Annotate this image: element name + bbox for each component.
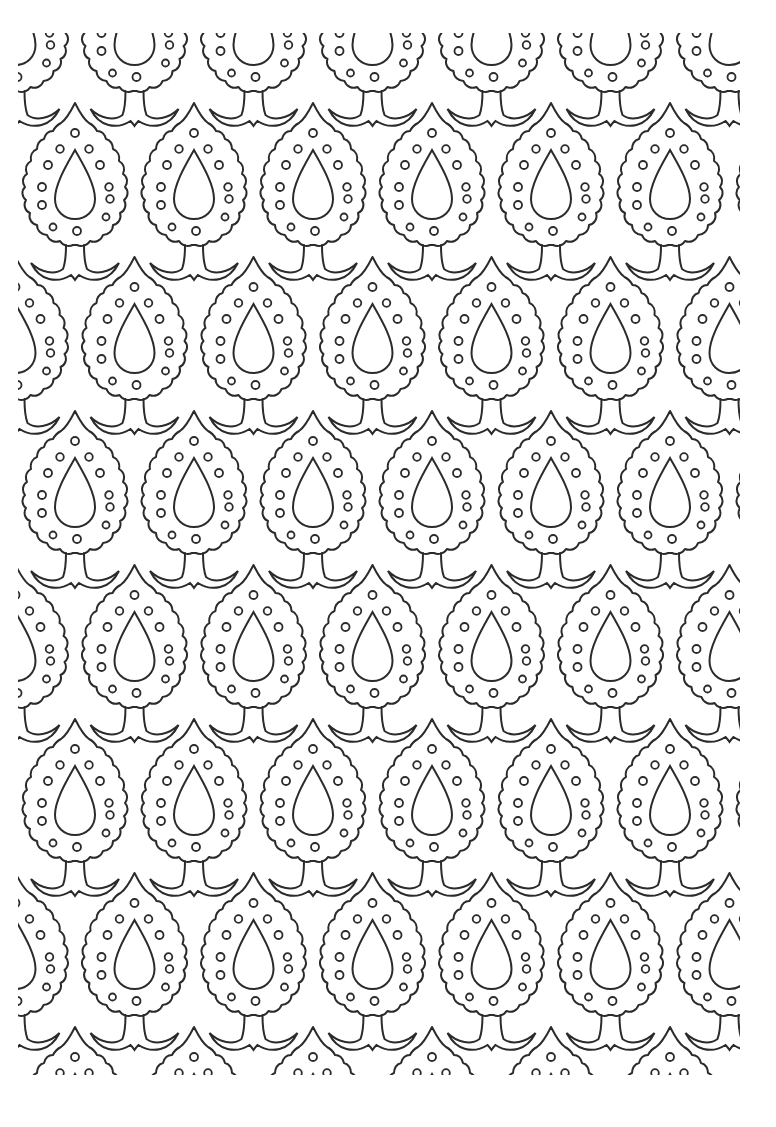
- paisley-motif: [736, 411, 740, 588]
- paisley-motif: [498, 1027, 603, 1075]
- paisley-motif: [379, 103, 484, 280]
- paisley-motif: [201, 257, 306, 434]
- paisley-motif: [260, 411, 365, 588]
- paisley-motif: [22, 103, 127, 280]
- paisley-motif: [22, 719, 127, 896]
- paisley-motif: [439, 257, 544, 434]
- paisley-motif: [498, 103, 603, 280]
- paisley-motif: [201, 33, 306, 126]
- paisley-motif: [558, 33, 663, 126]
- paisley-motif: [379, 719, 484, 896]
- paisley-motif: [439, 873, 544, 1050]
- paisley-motif: [498, 719, 603, 896]
- paisley-motif: [82, 565, 187, 742]
- paisley-motif: [498, 411, 603, 588]
- paisley-motif: [736, 719, 740, 896]
- paisley-motif: [617, 411, 722, 588]
- paisley-motif: [18, 33, 68, 126]
- paisley-motif: [677, 873, 740, 1050]
- paisley-motif: [260, 1027, 365, 1075]
- paisley-motif: [22, 1027, 127, 1075]
- paisley-motif: [379, 411, 484, 588]
- paisley-motif: [558, 873, 663, 1050]
- paisley-motif: [18, 257, 68, 434]
- paisley-motif: [558, 257, 663, 434]
- paisley-motif: [617, 1027, 722, 1075]
- paisley-motif: [558, 565, 663, 742]
- paisley-motif: [617, 719, 722, 896]
- paisley-motif: [141, 103, 246, 280]
- paisley-motif: [677, 33, 740, 126]
- paisley-motif: [320, 33, 425, 126]
- paisley-motif: [82, 873, 187, 1050]
- pattern-frame: [18, 33, 740, 1075]
- paisley-motif: [82, 33, 187, 126]
- paisley-motif: [617, 103, 722, 280]
- paisley-motif: [677, 565, 740, 742]
- paisley-motif: [379, 1027, 484, 1075]
- paisley-motif: [439, 565, 544, 742]
- paisley-motif: [320, 565, 425, 742]
- paisley-motif: [201, 873, 306, 1050]
- paisley-motif: [677, 257, 740, 434]
- paisley-motif: [141, 411, 246, 588]
- paisley-motif: [18, 873, 68, 1050]
- paisley-motif: [260, 719, 365, 896]
- paisley-motif: [320, 873, 425, 1050]
- paisley-motif: [141, 1027, 246, 1075]
- paisley-motif: [320, 257, 425, 434]
- paisley-motif: [18, 565, 68, 742]
- paisley-pattern: [18, 33, 740, 1075]
- paisley-motif: [82, 257, 187, 434]
- paisley-motif: [439, 33, 544, 126]
- paisley-motif: [141, 719, 246, 896]
- paisley-motif: [736, 103, 740, 280]
- paisley-motif: [201, 565, 306, 742]
- coloring-page: Paisley teardrop coloring page: [0, 0, 776, 1127]
- paisley-motif: [260, 103, 365, 280]
- paisley-motif: [22, 411, 127, 588]
- motif-grid: [18, 33, 740, 1075]
